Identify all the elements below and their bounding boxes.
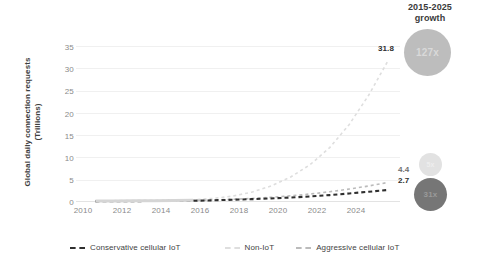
growth-bubble-conservative: 31x [414,178,447,211]
legend-item-conservative-cellular-iot[interactable]: Conservative cellular IoT [70,243,181,252]
y-tick-label: 35 [48,43,74,52]
legend-label: Aggressive cellular IoT [316,243,399,252]
data-label-non-iot: 31.8 [378,44,394,53]
y-tick-label: 30 [48,65,74,74]
x-tick-label: 2012 [102,206,142,215]
x-tick-label: 2010 [63,206,103,215]
x-tick-label: 2022 [297,206,337,215]
growth-line-chart: 2015-2025 growth Global daily connection… [0,0,479,266]
y-axis-title: Global daily connection requests (Trilli… [23,42,43,202]
series-line [96,60,389,201]
series-line [96,182,389,201]
y-tick-label: 25 [48,87,74,96]
legend-swatch-icon [70,247,85,249]
x-tick-label: 2014 [141,206,181,215]
chart-legend: Conservative cellular IoT Non-IoT Aggres… [70,243,399,252]
growth-title-line-1: 2015-2025 [382,2,478,13]
plot-area [76,46,400,202]
growth-annotation-title: 2015-2025 growth [382,2,478,24]
data-label-conservative: 2.7 [398,176,409,185]
growth-bubble-aggressive: 5x [419,153,442,176]
legend-item-aggressive-cellular-iot[interactable]: Aggressive cellular IoT [296,243,399,252]
y-tick-label: 15 [48,132,74,141]
series-line [96,200,194,201]
legend-item-non-iot[interactable]: Non-IoT [225,243,275,252]
legend-swatch-icon [296,247,311,249]
x-tick-label: 2024 [336,206,376,215]
legend-label: Conservative cellular IoT [90,243,181,252]
series-lines [76,46,400,202]
data-label-aggressive: 4.4 [398,165,409,174]
legend-label: Non-IoT [245,243,275,252]
growth-bubble-non-iot: 127x [404,29,451,76]
x-tick-label: 2020 [258,206,298,215]
y-tick-label: 5 [48,176,74,185]
x-tick-label: 2016 [180,206,220,215]
y-tick-label: 10 [48,154,74,163]
y-tick-label: 20 [48,110,74,119]
growth-title-line-2: growth [382,13,478,24]
legend-swatch-icon [225,247,240,249]
x-tick-label: 2018 [219,206,259,215]
